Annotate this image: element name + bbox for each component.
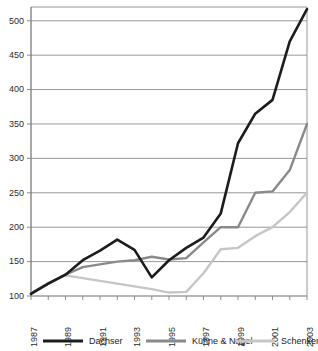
y-tick-label: 100 — [9, 291, 24, 301]
plot-frame — [31, 7, 307, 296]
grid-lines — [31, 21, 307, 262]
y-tick-label: 300 — [9, 153, 24, 163]
chart-container: 100150200250300350400450500 198719891991… — [0, 0, 318, 351]
series-line-schenker — [31, 193, 307, 293]
x-tick-label: 1989 — [63, 327, 73, 347]
x-tick-label: 1987 — [29, 327, 39, 347]
y-tick-label: 250 — [9, 188, 24, 198]
y-tick-label: 450 — [9, 50, 24, 60]
y-tick-label: 400 — [9, 84, 24, 94]
y-axis-labels: 100150200250300350400450500 — [9, 16, 24, 301]
series-line-dachser — [31, 9, 307, 294]
legend-label: Dachser — [89, 336, 123, 346]
x-axis-labels: 198719891991199319951997199920012003 — [29, 327, 315, 347]
y-tick-label: 500 — [9, 16, 24, 26]
y-tick-label: 150 — [9, 256, 24, 266]
x-tick-label: 1993 — [132, 327, 142, 347]
y-tick-label: 200 — [9, 222, 24, 232]
data-series — [31, 9, 307, 294]
legend-label: Schenker — [281, 336, 318, 346]
x-tick-label: 1995 — [167, 327, 177, 347]
line-chart: 100150200250300350400450500 198719891991… — [0, 0, 318, 351]
x-tick-label: 2001 — [270, 327, 280, 347]
y-tick-label: 350 — [9, 119, 24, 129]
